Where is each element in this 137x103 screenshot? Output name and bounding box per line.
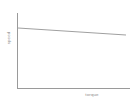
- chart-figure: speed torque: [0, 0, 137, 103]
- x-axis-label: torque: [85, 92, 99, 97]
- speed-torque-line-chart: speed torque: [0, 0, 137, 103]
- plot-area: [17, 13, 130, 88]
- y-axis-label: speed: [6, 31, 11, 44]
